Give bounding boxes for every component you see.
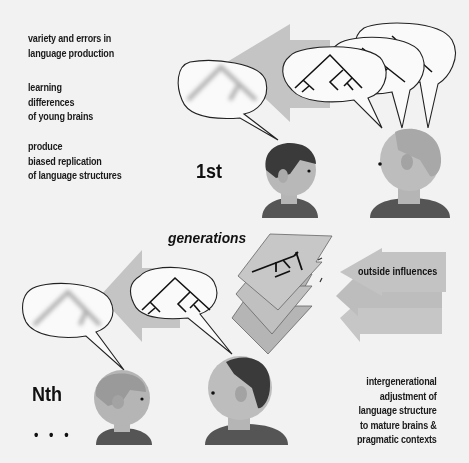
nth-generation-label: Nth	[32, 383, 62, 406]
note-line: of young brains	[28, 109, 93, 124]
speech-bubble-stack-top	[283, 23, 456, 128]
note-line: language structure	[357, 403, 437, 418]
note-learning-differences: learning differences of young brains	[28, 80, 93, 124]
note-line: differences	[28, 95, 93, 110]
child-figure-top	[262, 143, 318, 218]
child-figure-bottom	[94, 370, 152, 445]
note-intergenerational-adjustment: intergenerational adjustment of language…	[357, 374, 437, 447]
ellipsis-label: • • •	[34, 427, 72, 443]
generation-pages-stack	[232, 234, 332, 354]
note-line: adjustment of	[357, 389, 437, 404]
note-line: learning	[28, 80, 93, 95]
note-variety-errors: variety and errors in language productio…	[28, 31, 114, 60]
outside-influences-label: outside influences	[358, 265, 437, 277]
outside-influences-arrows	[336, 248, 446, 342]
note-line: of language structures	[28, 168, 122, 183]
generations-label: generations	[168, 229, 246, 246]
adult-figure-top	[370, 129, 450, 218]
note-line: pragmatic contexts	[357, 432, 437, 447]
note-line: produce	[28, 139, 122, 154]
adult-figure-bottom	[205, 356, 288, 445]
note-line: intergenerational	[357, 374, 437, 389]
note-line: language production	[28, 46, 114, 61]
note-line: variety and errors in	[28, 31, 114, 46]
speech-bubble-adult-bottom	[131, 267, 232, 354]
first-generation-label: 1st	[196, 160, 222, 183]
note-line: to mature brains &	[357, 418, 437, 433]
note-biased-replication: produce biased replication of language s…	[28, 139, 122, 183]
note-line: biased replication	[28, 154, 122, 169]
